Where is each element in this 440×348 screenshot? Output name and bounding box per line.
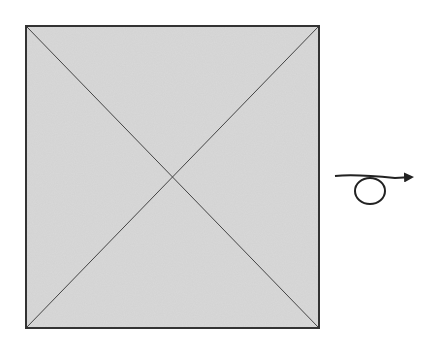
square-with-diagonals [26, 26, 319, 328]
diagram-canvas [0, 0, 440, 348]
rotation-arrow-icon [335, 175, 412, 204]
